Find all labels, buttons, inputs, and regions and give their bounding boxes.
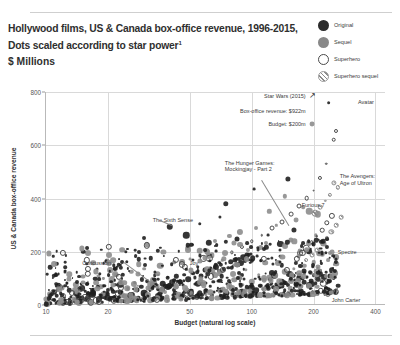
data-point-cluster — [132, 288, 134, 290]
data-point-superhero-sequel — [304, 258, 308, 262]
data-point-cluster — [209, 295, 215, 301]
data-point-sequel — [324, 274, 328, 278]
data-point-cluster — [220, 267, 226, 273]
y-axis-title: US & Canada box-office revenue — [8, 92, 19, 305]
data-point-superhero — [320, 228, 325, 233]
x-tick-label: 200 — [308, 308, 319, 315]
data-point-superhero-sequel — [331, 180, 336, 185]
data-point-cluster — [178, 297, 183, 302]
data-point-cluster — [315, 284, 320, 289]
data-point-cluster — [72, 277, 74, 279]
data-point-cluster — [100, 294, 103, 297]
data-point-cluster — [124, 250, 127, 253]
data-point-cluster — [231, 292, 235, 296]
data-point-cluster — [66, 276, 71, 281]
data-point-sequel — [257, 273, 261, 277]
data-point-original — [291, 228, 296, 233]
chart-title-line-2: Dots scaled according to star power1 — [8, 36, 308, 54]
data-point-original — [242, 277, 245, 280]
data-point-cluster — [170, 262, 174, 266]
data-point-cluster — [48, 289, 50, 291]
data-point-superhero — [288, 212, 293, 217]
data-point-cluster — [212, 290, 215, 293]
data-point-cluster — [208, 273, 214, 279]
data-point-cluster — [148, 256, 152, 260]
data-point-superhero — [331, 138, 336, 143]
data-point-sequel — [267, 209, 271, 213]
legend-label-sequel: Sequel — [334, 39, 351, 45]
data-point-sequel — [309, 121, 314, 126]
data-point-cluster — [208, 259, 211, 262]
data-point-cluster — [249, 245, 253, 249]
data-point-cluster — [54, 302, 57, 305]
data-point-cluster — [143, 297, 146, 300]
data-point-cluster — [219, 274, 224, 279]
sequel-marker-icon — [318, 37, 329, 48]
data-point-sequel — [237, 228, 243, 234]
data-point-cluster — [217, 280, 220, 283]
data-point-cluster — [308, 270, 312, 274]
data-point-cluster — [128, 292, 134, 298]
data-point-cluster — [191, 297, 194, 300]
y-tick-mark — [42, 92, 45, 93]
data-point-cluster — [234, 254, 236, 256]
scatter-plot-area: 0200400600800102050100200400Star Wars (2… — [45, 92, 385, 305]
x-gridline — [252, 92, 253, 304]
data-point-cluster — [89, 288, 91, 290]
data-point-cluster — [321, 253, 324, 256]
data-point-superhero — [261, 234, 263, 236]
data-point-cluster — [301, 262, 303, 264]
data-point-cluster — [280, 254, 285, 259]
data-point-cluster — [55, 293, 60, 298]
data-point-cluster — [195, 270, 199, 274]
chart-units-label: $ Millions — [8, 55, 308, 69]
data-point-cluster — [267, 293, 273, 299]
data-point-cluster — [155, 271, 160, 276]
data-point-cluster — [103, 284, 106, 287]
data-point-cluster — [262, 278, 267, 283]
legend-label-original: Original — [334, 22, 353, 28]
data-point-cluster — [114, 279, 116, 281]
data-point-original — [193, 276, 196, 279]
data-point-cluster — [55, 250, 58, 253]
legend-item-superhero-sequel: Superhero sequel — [318, 69, 378, 83]
data-point-sequel — [197, 247, 204, 254]
data-point-cluster — [311, 265, 315, 269]
y-tick-label: 800 — [30, 89, 41, 96]
data-point-sequel — [254, 226, 258, 230]
y-gridline — [46, 199, 385, 200]
data-point-cluster — [175, 293, 177, 295]
data-point-original — [285, 176, 290, 181]
y-tick-label: 200 — [30, 248, 41, 255]
data-point-original — [267, 234, 270, 237]
data-point-cluster — [136, 257, 140, 261]
data-point-cluster — [121, 273, 125, 277]
y-tick-mark — [42, 251, 45, 252]
data-point-cluster — [103, 290, 106, 293]
data-point-cluster — [81, 280, 86, 285]
data-point-cluster — [76, 271, 79, 274]
annotation-avatar: Avatar — [358, 99, 374, 106]
legend-item-sequel: Sequel — [318, 35, 378, 49]
data-point-sequel — [142, 267, 146, 271]
annotation-star-wars-revenue: Box-office revenue: $922m — [240, 108, 306, 115]
x-tick-label: 400 — [370, 308, 381, 315]
data-point-superhero-sequel — [334, 223, 338, 227]
data-point-cluster — [128, 270, 130, 272]
data-point-cluster — [234, 257, 238, 261]
data-point-superhero — [304, 196, 309, 201]
superhero-marker-icon — [318, 54, 329, 65]
data-point-superhero — [312, 189, 315, 192]
data-point-cluster — [278, 261, 281, 264]
data-point-cluster — [328, 279, 331, 282]
data-point-cluster — [325, 237, 329, 241]
legend-item-original: Original — [318, 18, 378, 32]
data-point-cluster — [217, 261, 221, 265]
annotation-concussion: Concussion — [82, 260, 111, 267]
data-point-cluster — [75, 280, 79, 284]
data-point-cluster — [106, 244, 112, 250]
data-point-cluster — [209, 285, 212, 288]
data-point-cluster — [98, 272, 101, 275]
data-point-cluster — [110, 286, 113, 289]
y-gridline — [46, 145, 385, 146]
